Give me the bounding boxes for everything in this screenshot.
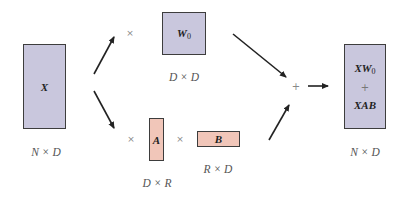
matrix-b-symbol: B: [215, 133, 222, 145]
arrow-w0-to-add: [233, 34, 286, 77]
matrix-w0-letter: W: [177, 27, 187, 39]
add-operator: +: [292, 81, 300, 92]
times-a-operator: ×: [127, 134, 135, 144]
times-b-operator: ×: [176, 134, 184, 144]
arrow-b-to-add: [269, 105, 289, 140]
matrix-w0: W0: [162, 12, 206, 55]
result-plus: +: [361, 82, 369, 93]
result-line1: XW0: [354, 62, 375, 76]
matrix-w0-symbol: W0: [177, 27, 191, 41]
matrix-w0-dims: D × D: [169, 71, 199, 83]
result-line1-symbol: XW: [354, 62, 371, 74]
matrix-a-symbol: A: [153, 134, 160, 146]
matrix-x: X: [23, 44, 66, 129]
matrix-result-dims: N × D: [350, 146, 380, 158]
matrix-w0-subscript: 0: [187, 32, 191, 41]
matrix-x-symbol: X: [41, 81, 48, 93]
matrix-result: XW0 + XAB: [344, 44, 386, 129]
result-line1-subscript: 0: [372, 67, 376, 76]
matrix-a-dims: D × R: [143, 177, 172, 189]
matrix-b: B: [197, 131, 240, 147]
result-line2: XAB: [354, 99, 376, 111]
arrow-x-to-w0: [94, 37, 114, 74]
matrix-x-dims: N × D: [31, 146, 61, 158]
matrix-a: A: [149, 118, 164, 161]
arrow-x-to-a: [94, 91, 114, 128]
times-w0-operator: ×: [126, 28, 134, 38]
matrix-b-dims: R × D: [204, 163, 233, 175]
